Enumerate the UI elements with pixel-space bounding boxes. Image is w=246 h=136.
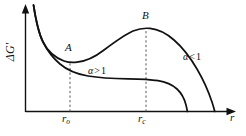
y-axis-label: ΔG'	[4, 35, 16, 69]
alpha-less-value: 1	[196, 51, 201, 62]
x-tick-label-r0: ro	[62, 113, 70, 124]
free-energy-vs-radius-chart: ΔG' A B α>1 α<1 ro rc r	[0, 0, 246, 136]
x-axis-label: r	[230, 112, 234, 123]
y-axis	[22, 4, 29, 112]
x-tick-r0-subscript: o	[66, 117, 70, 126]
x-tick-label-rc: rc	[138, 113, 146, 124]
point-label-b: B	[142, 10, 149, 21]
chart-canvas	[0, 0, 246, 136]
x-tick-rc-subscript: c	[142, 117, 145, 126]
x-axis	[26, 108, 237, 115]
comparator-less: <	[188, 51, 196, 62]
alpha-greater-value: 1	[101, 65, 106, 76]
annotation-alpha-less: α<1	[183, 52, 201, 62]
annotation-alpha-greater: α>1	[88, 66, 106, 76]
point-label-a: A	[65, 42, 72, 53]
y-axis-arrow	[22, 4, 29, 14]
comparator-greater: >	[93, 65, 101, 76]
